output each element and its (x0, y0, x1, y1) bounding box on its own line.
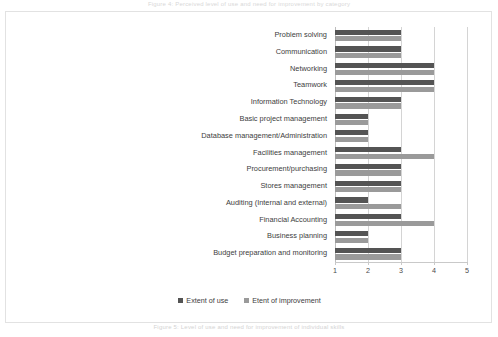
x-tickmark-1 (335, 262, 336, 265)
bar-extent-of-use (335, 130, 368, 135)
bar-extent-of-improvement (335, 53, 401, 58)
legend-label: Extent of use (186, 296, 228, 305)
plot-wrapper: Problem solvingCommunicationNetworkingTe… (6, 12, 493, 324)
bar-extent-of-use (335, 248, 401, 253)
bar-extent-of-improvement (335, 87, 434, 92)
bar-row (335, 228, 467, 245)
bar-row (335, 128, 467, 145)
category-label: Communication (276, 44, 327, 61)
category-axis-labels: Problem solvingCommunicationNetworkingTe… (6, 27, 331, 262)
bar-extent-of-improvement (335, 238, 368, 243)
bar-extent-of-use (335, 30, 401, 35)
category-label: Budget preparation and monitoring (213, 245, 327, 262)
category-label: Basic project management (239, 111, 327, 128)
category-label: Networking (290, 61, 327, 78)
bar-extent-of-improvement (335, 154, 434, 159)
category-label: Problem solving (274, 27, 327, 44)
bar-row (335, 145, 467, 162)
category-label: Teamwork (293, 77, 327, 94)
bar-extent-of-use (335, 181, 401, 186)
category-label: Information Technology (251, 94, 327, 111)
bar-extent-of-improvement (335, 137, 368, 142)
x-tickmark-4 (434, 262, 435, 265)
bar-extent-of-improvement (335, 221, 434, 226)
category-label: Procurement/purchasing (246, 161, 327, 178)
legend-swatch-icon (244, 298, 249, 303)
bar-row (335, 212, 467, 229)
bar-extent-of-improvement (335, 120, 368, 125)
category-label: Auditing (Internal and external) (226, 195, 327, 212)
category-label: Business planning (267, 228, 327, 245)
bar-extent-of-improvement (335, 36, 401, 41)
x-tickmark-3 (401, 262, 402, 265)
bar-extent-of-improvement (335, 103, 401, 108)
bar-extent-of-improvement (335, 187, 401, 192)
bar-extent-of-use (335, 214, 401, 219)
bar-row (335, 178, 467, 195)
x-tick-label-3: 3 (399, 266, 403, 275)
x-tick-label-5: 5 (465, 266, 469, 275)
bar-extent-of-improvement (335, 254, 401, 259)
bar-row (335, 94, 467, 111)
bar-row (335, 111, 467, 128)
x-tickmark-2 (368, 262, 369, 265)
x-tick-label-2: 2 (366, 266, 370, 275)
category-label: Stores management (260, 178, 327, 195)
bar-extent-of-use (335, 164, 401, 169)
bar-row (335, 195, 467, 212)
bar-row (335, 27, 467, 44)
bar-extent-of-improvement (335, 70, 434, 75)
legend-label: Etent of improvement (252, 296, 320, 305)
legend-swatch-icon (178, 298, 183, 303)
chart-frame: Problem solvingCommunicationNetworkingTe… (5, 11, 492, 323)
bar-extent-of-use (335, 80, 434, 85)
bar-extent-of-use (335, 147, 401, 152)
bar-row (335, 77, 467, 94)
bar-extent-of-use (335, 231, 368, 236)
bar-extent-of-use (335, 197, 368, 202)
category-label: Database management/Administration (201, 128, 327, 145)
x-tick-label-4: 4 (432, 266, 436, 275)
x-tick-label-1: 1 (333, 266, 337, 275)
bar-extent-of-improvement (335, 204, 401, 209)
legend-item[interactable]: Extent of use (178, 296, 228, 305)
bar-row (335, 61, 467, 78)
category-label: Financial Accounting (259, 212, 327, 229)
category-label: Facilities management (253, 145, 327, 162)
bar-extent-of-use (335, 63, 434, 68)
caption-bottom: Figure 5: Level of use and need for impr… (0, 324, 498, 336)
plot-area (335, 27, 467, 262)
bar-row (335, 44, 467, 61)
bar-extent-of-use (335, 97, 401, 102)
legend-item[interactable]: Etent of improvement (244, 296, 320, 305)
bar-extent-of-improvement (335, 170, 401, 175)
gridline-5 (467, 27, 468, 262)
x-tickmark-5 (467, 262, 468, 265)
bar-row (335, 245, 467, 262)
chart-legend: Extent of useEtent of improvement (6, 296, 493, 305)
bar-extent-of-use (335, 114, 368, 119)
bar-extent-of-use (335, 46, 401, 51)
bar-row (335, 161, 467, 178)
